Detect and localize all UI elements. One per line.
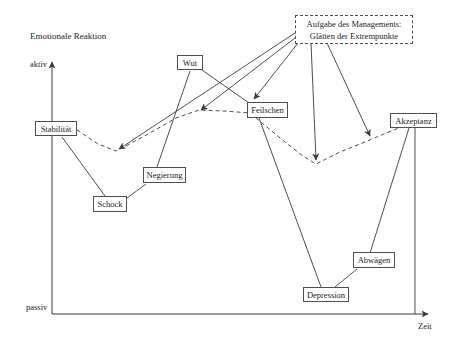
curve-segment-wut-feilschen xyxy=(202,70,249,103)
stage-box-depression: Depression xyxy=(303,287,349,302)
stage-box-negierung: Negierung xyxy=(143,167,186,183)
stage-box-feilschen: Feilschen xyxy=(247,102,288,118)
management-arrow-middle-dip xyxy=(311,43,316,160)
diagram-lines-layer xyxy=(0,0,457,348)
curve-segment-feilschen-depression xyxy=(259,118,321,287)
y-axis-title: Emotionale Reaktion xyxy=(30,31,106,41)
management-note-line2: Glätten der Extrempunkte xyxy=(310,30,398,42)
management-note-box: Aufgabe des Managements: Glätten der Ext… xyxy=(295,15,413,44)
curve-segment-depression-abwaegen xyxy=(335,269,357,287)
y-axis-top-label: aktiv xyxy=(30,59,47,69)
stage-box-schock: Schock xyxy=(93,196,127,212)
curve-segment-abwaegen-akzeptanz xyxy=(370,128,409,253)
smoothed-curve-dashed xyxy=(77,110,401,164)
stage-box-akzeptanz: Akzeptanz xyxy=(390,113,437,128)
management-note-line1: Aufgabe des Managements: xyxy=(307,18,402,30)
management-arrow-left-dip xyxy=(119,33,295,149)
stage-box-stabilitaet: Stabilität xyxy=(35,121,77,136)
curve-segment-negierung-wut xyxy=(157,71,190,167)
management-arrow-right-rise xyxy=(327,43,370,136)
stage-box-abwaegen: Abwägen xyxy=(353,252,395,268)
management-arrow-peak xyxy=(201,38,295,110)
stage-box-wut: Wut xyxy=(177,55,203,70)
management-arrow-feilschen xyxy=(254,43,298,99)
x-axis-label: Zeit xyxy=(418,321,432,331)
curve-segment-schock-negierung xyxy=(127,184,146,198)
curve-segment-stabilitaet-schock xyxy=(62,137,105,196)
y-axis-bottom-label: passiv xyxy=(26,302,47,312)
change-curve-diagram: Emotionale Reaktion aktiv passiv Zeit Au… xyxy=(0,0,457,348)
